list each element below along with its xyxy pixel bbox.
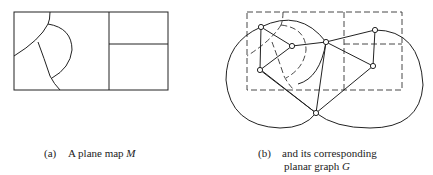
panel-b-caption-line2-text: planar graph <box>284 160 342 172</box>
vertex-v3 <box>257 67 262 72</box>
panel-b-caption-line1: and its corresponding <box>282 147 377 159</box>
vertex-v2 <box>289 43 294 48</box>
panel-a-caption-text: A plane map <box>68 147 126 159</box>
vertex-v7 <box>313 110 318 115</box>
panel-b-label: (b) <box>258 147 282 160</box>
map-region-border-3 <box>48 24 72 78</box>
caption-panel-a: (a)A plane map M <box>44 147 136 160</box>
planar-graph-g-edges <box>226 20 423 128</box>
map-region-border-1 <box>48 12 50 24</box>
map-region-border-4 <box>38 42 60 90</box>
panel-a-symbol: M <box>126 147 135 159</box>
panel-b-caption-line2: planar graph G <box>258 160 377 173</box>
caption-panel-b: (b)and its corresponding planar graph G <box>258 147 377 173</box>
panel-a-label: (a) <box>44 147 68 160</box>
plane-map-m <box>14 12 168 90</box>
map-region-border-2 <box>14 24 48 56</box>
vertex-v4 <box>323 39 328 44</box>
vertex-v5 <box>372 27 377 32</box>
vertex-v6 <box>370 63 375 68</box>
vertex-v1 <box>258 24 263 29</box>
map-outer-boundary <box>14 12 168 90</box>
panel-b-symbol: G <box>342 160 350 172</box>
